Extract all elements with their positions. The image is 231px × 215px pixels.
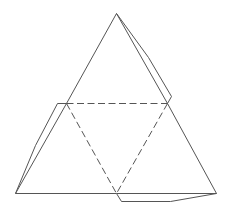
outline-edge	[16, 104, 67, 194]
fold-line	[67, 104, 117, 194]
fold-lines	[67, 104, 168, 194]
bottom-tab	[117, 194, 217, 202]
outline-edge	[117, 14, 168, 104]
outline	[16, 14, 217, 194]
right-tab	[117, 14, 172, 104]
outline-edge	[168, 104, 217, 194]
fold-line	[117, 104, 168, 194]
tetrahedron-net-diagram	[0, 0, 231, 215]
outline-edge	[67, 14, 117, 104]
glue-tabs	[16, 14, 217, 202]
